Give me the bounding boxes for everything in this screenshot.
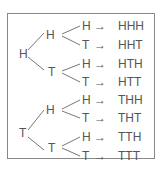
level3-node: H <box>82 58 91 70</box>
level2-node: T <box>48 142 55 154</box>
arrow-icon: → <box>94 39 106 51</box>
arrow-icon: → <box>94 131 106 143</box>
outcome: HTT <box>118 76 141 88</box>
arrow-icon: → <box>94 76 106 88</box>
level2-node: T <box>48 66 55 78</box>
level3-node: H <box>82 20 91 32</box>
arrow-icon: → <box>94 20 106 32</box>
root-h: H <box>19 48 28 60</box>
arrow-icon: → <box>94 58 106 70</box>
level3-node: T <box>82 150 89 162</box>
arrow-icon: → <box>94 112 106 124</box>
outcome: TTT <box>118 150 140 162</box>
level2-node: H <box>46 104 55 116</box>
outcome: TTH <box>118 131 141 143</box>
outcome: HHH <box>118 20 144 32</box>
outcome: HHT <box>118 39 143 51</box>
level2-node: H <box>46 29 55 41</box>
arrow-icon: → <box>94 150 106 162</box>
outcome: THH <box>118 94 143 106</box>
outcome: THT <box>118 112 141 124</box>
root-t: T <box>19 127 26 139</box>
level3-node: H <box>82 94 91 106</box>
level3-node: H <box>82 131 91 143</box>
level3-node: T <box>82 112 89 124</box>
level3-node: T <box>82 39 89 51</box>
outcome: HTH <box>118 58 143 70</box>
arrow-icon: → <box>94 94 106 106</box>
level3-node: T <box>82 76 89 88</box>
